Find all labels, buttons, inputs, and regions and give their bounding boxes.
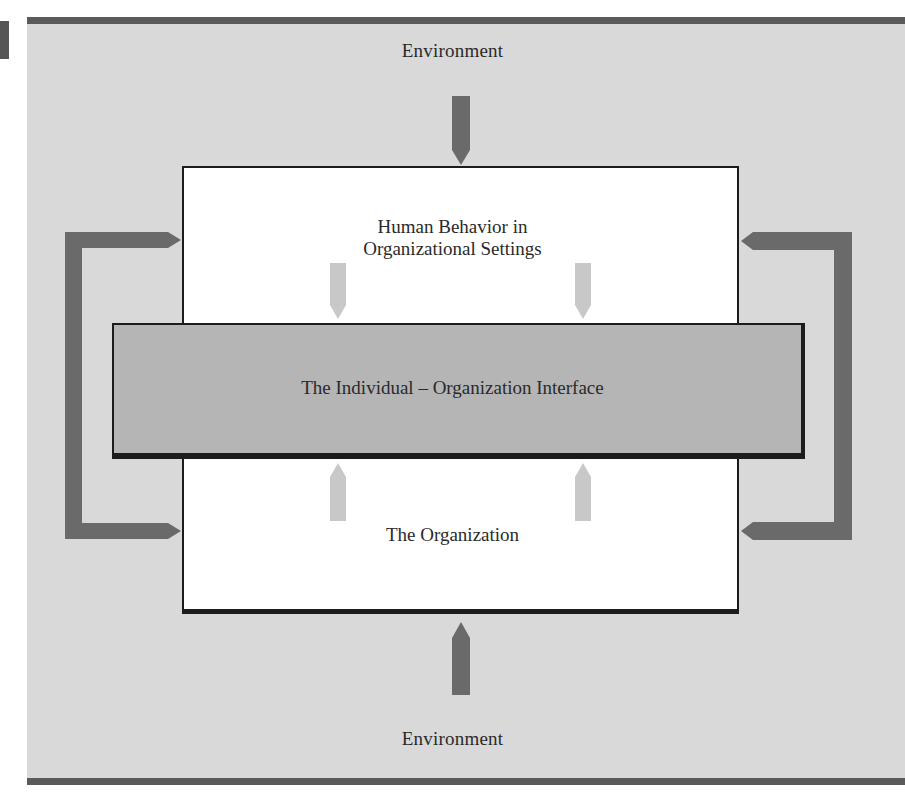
- environment-label-top: Environment: [0, 40, 905, 62]
- frame-rule-top: [27, 17, 905, 24]
- interface-band-label: The Individual – Organization Interface: [0, 377, 905, 399]
- environment-label-bottom: Environment: [0, 728, 905, 750]
- upper-box-title-line2: Organizational Settings: [0, 238, 905, 260]
- upper-box-title: Human Behavior in Organizational Setting…: [0, 216, 905, 260]
- upper-box-title-line1: Human Behavior in: [0, 216, 905, 238]
- frame-rule-bottom: [27, 778, 905, 785]
- lower-box-title: The Organization: [0, 524, 905, 546]
